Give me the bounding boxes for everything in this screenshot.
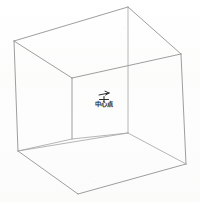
cube-edge-top-front-to-top-left: [14, 41, 72, 78]
cube-edge-bottom-right-to-bottom-back: [128, 133, 186, 164]
cube-edge-vertical-right: [181, 54, 186, 164]
center-point-label: 中心点: [95, 101, 113, 107]
cube-edge-bottom-left-to-bottom-front: [18, 151, 78, 194]
cube-edge-vertical-left: [14, 41, 18, 151]
cube-edge-top-left-to-top-back: [14, 7, 128, 41]
cube-edge-bottom-front-to-bottom-right: [78, 164, 186, 194]
cube-edge-bottom-back-to-bottom-left: [18, 133, 128, 151]
figure-canvas: 中心点: [0, 0, 200, 202]
cube-edge-top-back-to-top-right: [128, 7, 181, 54]
cube-edge-top-right-to-top-front: [72, 54, 181, 78]
